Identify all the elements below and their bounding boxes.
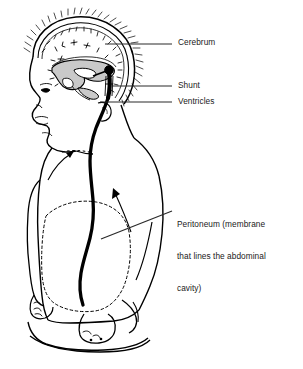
arrow-to-peritoneal-cavity [115, 193, 131, 232]
label-peritoneum-line-2: that lines the abdominal [177, 251, 266, 262]
toe-dot-1 [90, 339, 93, 342]
medical-diagram: Cerebrum Shunt Ventricles Peritoneum (me… [0, 0, 303, 369]
thigh-outline [28, 322, 148, 350]
toe-lines [83, 331, 100, 338]
chin-crease [42, 133, 52, 136]
toe-dot-2 [100, 338, 103, 341]
label-peritoneum: Peritoneum (membrane that lines the abdo… [177, 198, 266, 315]
label-peritoneum-line-3: cavity) [177, 283, 266, 294]
torso-back-outline [139, 176, 163, 310]
upper-lip [35, 117, 48, 119]
foot-near-outline [79, 314, 115, 343]
shunt-catheter-head-segment [108, 72, 110, 98]
shoulder-right-line [134, 138, 159, 176]
label-peritoneum-line-1: Peritoneum (membrane [177, 219, 266, 230]
label-shunt: Shunt [178, 80, 200, 91]
torso-front-outline [38, 148, 52, 320]
fourth-ventricle [78, 88, 99, 99]
arrowhead-peritoneum [112, 188, 120, 199]
arrow-to-neck-tunnel [48, 153, 72, 180]
eyebrow [40, 84, 52, 86]
label-cerebrum: Cerebrum [178, 37, 215, 48]
finger-lines [34, 302, 42, 316]
back-arm-crease [136, 222, 152, 280]
eye [41, 89, 50, 93]
leg-near-outline [48, 310, 139, 323]
neck-back-line [121, 105, 134, 138]
label-ventricles: Ventricles [178, 96, 214, 107]
